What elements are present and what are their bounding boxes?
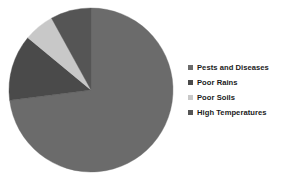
- legend-swatch-pests-and-diseases: [188, 65, 193, 70]
- legend-label-poor-rains: Poor Rains: [197, 78, 238, 87]
- pie-chart-figure: Pests and Diseases Poor Rains Poor Soils…: [0, 0, 287, 179]
- pie-plot-area: [0, 0, 185, 179]
- legend-swatch-poor-rains: [188, 80, 193, 85]
- legend-label-pests-and-diseases: Pests and Diseases: [197, 63, 269, 72]
- pie-slice-group: [9, 8, 173, 172]
- legend-item-pests-and-diseases[interactable]: Pests and Diseases: [188, 60, 287, 75]
- legend-swatch-high-temperatures: [188, 110, 193, 115]
- chart-legend: Pests and Diseases Poor Rains Poor Soils…: [188, 60, 287, 120]
- legend-label-high-temperatures: High Temperatures: [197, 108, 267, 117]
- legend-item-high-temperatures[interactable]: High Temperatures: [188, 105, 287, 120]
- legend-item-poor-soils[interactable]: Poor Soils: [188, 90, 287, 105]
- pie-svg: [0, 0, 185, 179]
- legend-swatch-poor-soils: [188, 95, 193, 100]
- legend-item-poor-rains[interactable]: Poor Rains: [188, 75, 287, 90]
- legend-label-poor-soils: Poor Soils: [197, 93, 235, 102]
